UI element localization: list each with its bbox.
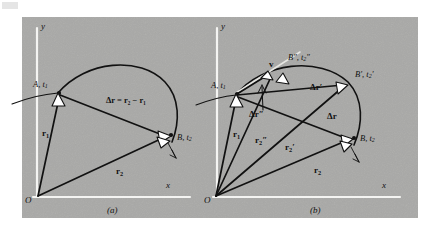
panel-b-label-delta-r-dprime-mark: ″ bbox=[259, 109, 264, 119]
panel-a-label-r2-sub: 2 bbox=[120, 170, 123, 177]
panel-b-label-delta-r-text: Δr bbox=[327, 111, 337, 121]
panel-a-equation: Δr = r₂ − r₁ bbox=[106, 96, 146, 105]
panel-b-point-b-sub: 2 bbox=[372, 137, 375, 143]
panel-b-point-b-dprime-mark: ″ bbox=[306, 52, 310, 62]
scan-artifact bbox=[2, 2, 18, 9]
panel-a-label-r1: r1 bbox=[42, 129, 49, 139]
panel-a-label-r1-sub: 1 bbox=[46, 132, 49, 139]
panel-b-point-a-sub: 1 bbox=[223, 84, 226, 90]
panel-b-origin-label: O bbox=[204, 196, 211, 205]
panel-b-label-delta-r-double-prime: Δr″ bbox=[249, 110, 264, 119]
panel-b-label-delta-r-prime: Δr′ bbox=[310, 83, 322, 92]
panel-a-point-a-label: A, t1 bbox=[33, 80, 48, 90]
panel-b-point-b-text: B, t bbox=[360, 133, 372, 143]
panel-b-label-r2: r2 bbox=[314, 166, 321, 176]
panel-a-label-r2: r2 bbox=[116, 167, 123, 177]
panel-a-point-a-text: A, t bbox=[33, 79, 45, 89]
panel-a-point-a-sub: 1 bbox=[45, 83, 48, 89]
panel-b-point-b-double-prime-label: B″, t2″ bbox=[288, 53, 310, 63]
panel-a-caption: (a) bbox=[107, 206, 118, 215]
panel-b-point-a-label: A, t1 bbox=[211, 81, 226, 91]
panel-b-label-delta-r-prime-mark: ′ bbox=[320, 82, 323, 92]
panel-b-label-r2-sub: 2 bbox=[318, 169, 321, 176]
panel-b-point-b-prime-label: B′, t2′ bbox=[355, 70, 374, 80]
panel-b-label-r2-dprime-mark: ″ bbox=[262, 135, 267, 145]
panel-b-y-axis-label: y bbox=[221, 22, 225, 31]
panel-b-caption: (b) bbox=[310, 206, 321, 215]
figure-canvas bbox=[0, 0, 434, 241]
panel-a-point-b-sub: 2 bbox=[189, 136, 192, 142]
panel-a-origin-label: O bbox=[25, 196, 32, 205]
panel-b-label-velocity: v bbox=[269, 60, 274, 69]
panel-b-label-delta-r-dprime-text: Δr bbox=[249, 109, 259, 119]
panel-b-label-delta-r-prime-text: Δr bbox=[310, 82, 320, 92]
panel-b-label-r1: r1 bbox=[233, 130, 240, 140]
panel-a-point-b-label: B, t2 bbox=[177, 133, 192, 143]
panel-b-label-r2-prime-mark: ′ bbox=[292, 142, 295, 152]
panel-b-point-b-dprime-text: B″, t bbox=[288, 52, 303, 62]
panel-a-y-axis-label: y bbox=[41, 22, 45, 31]
panel-a-point-b-text: B, t bbox=[177, 132, 189, 142]
panel-b-point-b-label: B, t2 bbox=[360, 134, 375, 144]
figure-root: y x O A, t1 B, t2 r1 r2 Δr = r₂ − r₁ (a)… bbox=[0, 0, 434, 241]
panel-b-label-r1-sub: 1 bbox=[237, 133, 240, 140]
panel-b-label-r2-double-prime: r2″ bbox=[255, 136, 267, 146]
panel-b-label-r2-prime: r2′ bbox=[285, 143, 295, 153]
panel-b-label-delta-r: Δr bbox=[327, 112, 337, 121]
panel-b-x-axis-label: x bbox=[382, 181, 386, 190]
panel-b-point-b-prime-mark: ′ bbox=[372, 69, 374, 79]
panel-b-point-b-prime-text: B′, t bbox=[355, 69, 369, 79]
panel-b-point-a-text: A, t bbox=[211, 80, 223, 90]
panel-a-x-axis-label: x bbox=[166, 181, 170, 190]
